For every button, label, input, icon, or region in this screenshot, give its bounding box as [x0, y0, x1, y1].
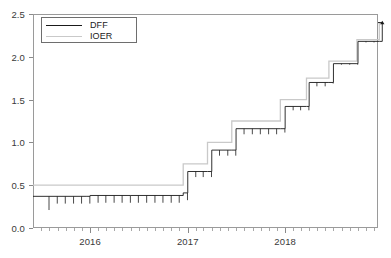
x-tick-minor — [203, 228, 204, 231]
x-tick-minor — [98, 228, 99, 231]
x-tick-minor — [253, 228, 254, 231]
series-line-dff — [33, 23, 382, 197]
x-tick-minor — [269, 228, 270, 231]
legend-label-dff: DFF — [90, 20, 108, 31]
x-tick-minor — [350, 228, 351, 231]
x-tick-major — [285, 228, 286, 233]
series-dff-monthend-spikes — [49, 21, 384, 210]
legend: DFF IOER — [41, 17, 137, 43]
legend-swatch-ioer-icon — [46, 36, 82, 37]
x-tick-minor — [163, 228, 164, 231]
y-tick-label: 1.5 — [0, 94, 25, 105]
x-tick-minor — [66, 228, 67, 231]
legend-swatch-dff-icon — [46, 25, 82, 26]
y-tick-label: 1.0 — [0, 137, 25, 148]
x-tick-minor — [220, 228, 221, 231]
legend-label-ioer: IOER — [90, 31, 112, 42]
x-tick-major — [188, 228, 189, 233]
x-tick-minor — [147, 228, 148, 231]
x-tick-minor — [196, 228, 197, 231]
y-tick-label: 0.0 — [0, 223, 25, 234]
x-tick-minor — [309, 228, 310, 231]
x-tick-major — [90, 228, 91, 233]
x-tick-minor — [317, 228, 318, 231]
x-tick-minor — [342, 228, 343, 231]
x-tick-minor — [261, 228, 262, 231]
x-tick-label: 2018 — [274, 236, 296, 247]
x-tick-minor — [366, 228, 367, 231]
y-tick-label: 2.0 — [0, 51, 25, 62]
legend-item-dff: DFF — [46, 20, 132, 31]
x-tick-label: 2017 — [177, 236, 199, 247]
x-tick-minor — [155, 228, 156, 231]
y-tick-mark — [29, 228, 33, 229]
x-tick-minor — [49, 228, 50, 231]
y-tick-label: 2.5 — [0, 9, 25, 20]
x-tick-minor — [212, 228, 213, 231]
x-tick-minor — [106, 228, 107, 231]
x-tick-minor — [139, 228, 140, 231]
x-tick-minor — [277, 228, 278, 231]
series-line-ioer — [33, 23, 379, 186]
x-tick-minor — [228, 228, 229, 231]
x-tick-minor — [325, 228, 326, 231]
x-tick-minor — [374, 228, 375, 231]
x-tick-minor — [74, 228, 75, 231]
x-tick-minor — [244, 228, 245, 231]
x-tick-minor — [179, 228, 180, 231]
x-tick-minor — [82, 228, 83, 231]
x-tick-minor — [301, 228, 302, 231]
x-tick-minor — [171, 228, 172, 231]
x-tick-label: 2016 — [79, 236, 101, 247]
x-tick-minor — [358, 228, 359, 231]
x-tick-minor — [333, 228, 334, 231]
x-tick-minor — [131, 228, 132, 231]
chart-container: 0.00.51.01.52.02.5 201620172018 DFF IOER — [0, 0, 391, 258]
y-tick-label: 0.5 — [0, 180, 25, 191]
x-tick-minor — [293, 228, 294, 231]
legend-item-ioer: IOER — [46, 31, 132, 42]
x-tick-minor — [236, 228, 237, 231]
x-tick-minor — [122, 228, 123, 231]
x-tick-minor — [114, 228, 115, 231]
series-layer — [33, 14, 378, 228]
x-tick-minor — [41, 228, 42, 231]
x-tick-minor — [58, 228, 59, 231]
